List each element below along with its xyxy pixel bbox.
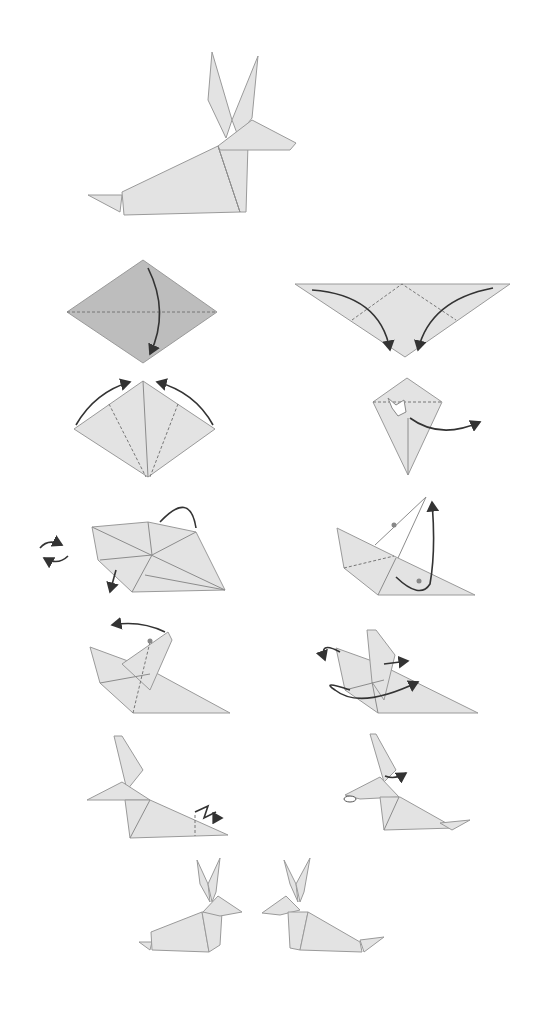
step-1 bbox=[67, 260, 217, 363]
rabbit-left bbox=[139, 858, 242, 952]
step-5 bbox=[40, 507, 225, 592]
step-2 bbox=[295, 284, 510, 357]
step-3 bbox=[74, 381, 215, 477]
step-7 bbox=[90, 624, 230, 713]
step-6 bbox=[337, 497, 475, 595]
turn-over-icon bbox=[40, 542, 68, 561]
final-rabbit bbox=[88, 52, 296, 215]
origami-diagram bbox=[0, 0, 552, 1013]
step-4 bbox=[373, 378, 480, 475]
rabbit-right bbox=[262, 858, 384, 952]
result-pair bbox=[139, 858, 384, 952]
step-8 bbox=[323, 630, 478, 713]
step-10 bbox=[344, 734, 470, 830]
step-9 bbox=[87, 736, 228, 838]
